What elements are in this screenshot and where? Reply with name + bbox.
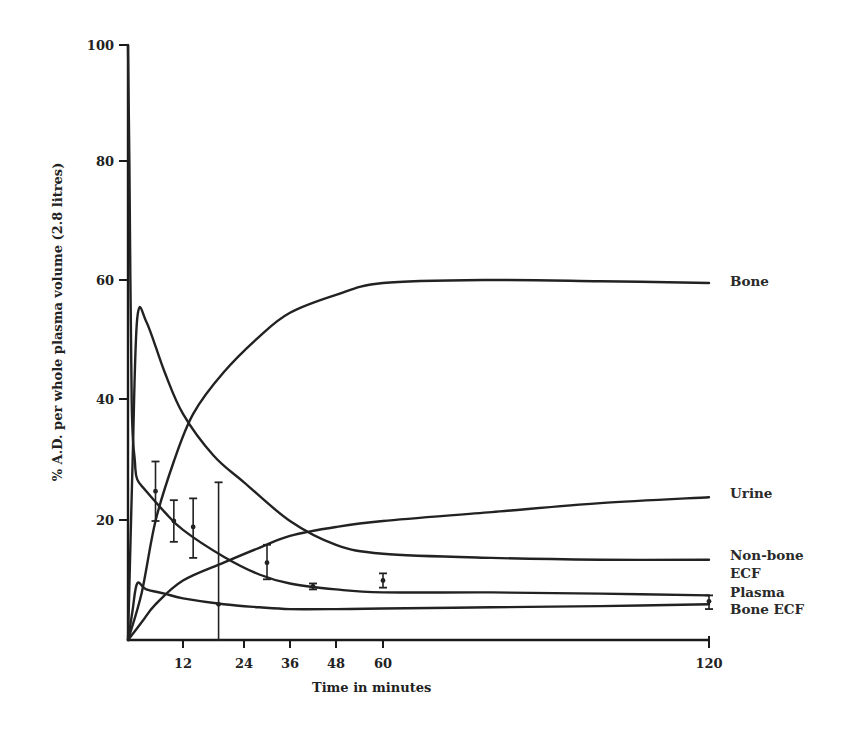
legend: Bone Urine Non-bone ECF Plasma Bone ECF <box>730 273 805 617</box>
y-tick-label: 20 <box>96 513 114 528</box>
error-bars <box>152 462 714 641</box>
y-axis-title: % A.D. per whole plasma volume (2.8 litr… <box>50 163 65 482</box>
y-tick-label: 40 <box>96 392 114 407</box>
y-tick-label: 80 <box>96 154 114 169</box>
error-bar <box>215 482 223 640</box>
legend-label-urine: Urine <box>730 485 772 501</box>
y-tick-label: 60 <box>96 273 114 288</box>
error-bar <box>379 573 387 587</box>
legend-label-bone: Bone <box>730 273 769 289</box>
legend-label-nonbone-ecf: Non-bone <box>730 547 804 563</box>
error-bar <box>263 545 271 580</box>
x-tick-label: 36 <box>281 656 299 671</box>
error-bar <box>189 498 197 558</box>
error-bar <box>170 500 178 542</box>
x-tick-label: 12 <box>174 656 192 671</box>
curve-urine <box>128 497 709 640</box>
curves <box>128 45 709 640</box>
curve-bone-ecf <box>128 583 709 640</box>
chart: 100 80 60 40 20 12 24 36 48 60 120 Time … <box>0 0 863 732</box>
y-tick-label: 100 <box>87 38 114 53</box>
error-bar <box>705 595 713 609</box>
y-ticks: 100 80 60 40 20 <box>87 38 128 528</box>
x-tick-label: 60 <box>374 656 392 671</box>
legend-label-plasma: Plasma <box>730 584 785 600</box>
legend-label-nonbone-ecf-2: ECF <box>730 565 761 581</box>
x-tick-label: 120 <box>695 656 722 671</box>
x-tick-label: 24 <box>235 656 253 671</box>
x-tick-label: 48 <box>327 656 345 671</box>
curve-plasma <box>128 45 709 595</box>
x-ticks: 12 24 36 48 60 120 <box>174 636 723 671</box>
curve-bone <box>128 280 709 640</box>
legend-label-bone-ecf: Bone ECF <box>730 601 805 617</box>
x-axis-title: Time in minutes <box>312 680 431 695</box>
curve-non-bone-ecf <box>128 307 709 640</box>
